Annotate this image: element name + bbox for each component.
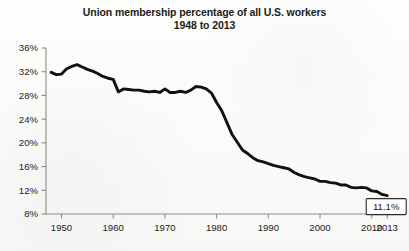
x-axis: 19501960197019801990200020102013 xyxy=(46,214,398,233)
data-series-union-membership xyxy=(51,65,387,196)
y-tick-label: 36% xyxy=(19,42,39,53)
line-chart-plot: 8%12%16%20%24%28%32%36% 1950196019701980… xyxy=(0,0,409,251)
y-tick-label: 12% xyxy=(19,185,39,196)
y-tick-label: 28% xyxy=(19,90,39,101)
annotation-callout: 11.1% xyxy=(366,199,406,215)
y-tick-label: 8% xyxy=(24,208,38,219)
y-tick-label: 20% xyxy=(19,137,39,148)
x-tick-label: 1970 xyxy=(154,222,175,233)
series-line xyxy=(51,65,387,196)
y-tick-label: 16% xyxy=(19,161,39,172)
x-tick-label: 1960 xyxy=(103,222,124,233)
y-tick-label: 32% xyxy=(19,66,39,77)
y-tick-label: 24% xyxy=(19,114,39,125)
y-axis: 8%12%16%20%24%28%32%36% xyxy=(19,42,46,219)
x-tick-label: 2000 xyxy=(309,222,330,233)
x-tick-label: 1980 xyxy=(206,222,227,233)
chart-container: Union membership percentage of all U.S. … xyxy=(0,0,409,251)
x-tick-label: 1950 xyxy=(51,222,72,233)
x-tick-label: 2013 xyxy=(377,222,398,233)
callout-label: 11.1% xyxy=(373,201,400,212)
x-tick-label: 1990 xyxy=(258,222,279,233)
